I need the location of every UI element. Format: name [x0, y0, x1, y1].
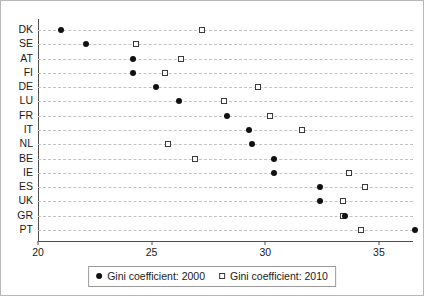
data-point-es-2010 [362, 184, 368, 190]
data-point-it-2010 [299, 127, 305, 133]
gridline [38, 59, 413, 60]
gridline [38, 159, 413, 160]
data-point-uk-2000 [317, 198, 323, 204]
category-label-at: AT [0, 52, 33, 65]
x-tick-30 [265, 241, 266, 245]
legend-label: Gini coefficient: 2010 [230, 270, 328, 282]
chart-legend: Gini coefficient: 2000Gini coefficient: … [88, 266, 336, 287]
gini-coefficient-dot-plot: DKSEATFIDELUFRITNLBEIEESUKGRPT 20253035 … [0, 0, 424, 296]
x-tick-20 [38, 241, 39, 245]
gridline [38, 87, 413, 88]
data-point-se-2000 [83, 41, 89, 47]
gridline [38, 173, 413, 174]
open-square-icon [219, 273, 225, 279]
x-tick-25 [151, 241, 152, 245]
data-point-at-2010 [178, 56, 184, 62]
category-label-gr: GR [0, 209, 33, 222]
data-point-pt-2010 [358, 227, 364, 233]
data-point-es-2000 [317, 184, 323, 190]
x-tick-label-30: 30 [245, 246, 285, 258]
data-point-pt-2000 [412, 227, 418, 233]
gridline [38, 201, 413, 202]
data-point-fi-2010 [162, 70, 168, 76]
x-tick-35 [378, 241, 379, 245]
category-label-lu: LU [0, 94, 33, 107]
data-point-uk-2010 [340, 198, 346, 204]
gridline [38, 216, 413, 217]
category-label-dk: DK [0, 23, 33, 36]
x-axis-line [38, 241, 413, 242]
data-point-nl-2000 [249, 141, 255, 147]
category-label-nl: NL [0, 137, 33, 150]
gridline [38, 187, 413, 188]
legend-entry-2010: Gini coefficient: 2010 [219, 270, 328, 282]
category-label-se: SE [0, 37, 33, 50]
gridline [38, 44, 413, 45]
data-point-be-2010 [192, 156, 198, 162]
category-label-be: BE [0, 152, 33, 165]
data-point-fr-2010 [267, 113, 273, 119]
x-tick-label-20: 20 [18, 246, 58, 258]
data-point-nl-2010 [165, 141, 171, 147]
data-point-it-2000 [246, 127, 252, 133]
gridline [38, 144, 413, 145]
data-point-dk-2000 [58, 27, 64, 33]
data-point-dk-2010 [199, 27, 205, 33]
category-label-pt: PT [0, 223, 33, 236]
legend-label: Gini coefficient: 2000 [107, 270, 205, 282]
data-point-be-2000 [271, 156, 277, 162]
plot-area: DKSEATFIDELUFRITNLBEIEESUKGRPT 20253035 [38, 19, 413, 241]
data-point-se-2010 [133, 41, 139, 47]
category-label-it: IT [0, 123, 33, 136]
category-label-ie: IE [0, 166, 33, 179]
gridline [38, 73, 413, 74]
data-point-lu-2000 [176, 98, 182, 104]
category-label-fr: FR [0, 109, 33, 122]
legend-entry-2000: Gini coefficient: 2000 [96, 270, 205, 282]
category-label-fi: FI [0, 66, 33, 79]
filled-circle-icon [96, 273, 102, 279]
gridline [38, 30, 413, 31]
data-point-de-2000 [153, 84, 159, 90]
data-point-de-2010 [255, 84, 261, 90]
x-tick-label-35: 35 [359, 246, 399, 258]
data-point-ie-2000 [271, 170, 277, 176]
data-point-lu-2010 [221, 98, 227, 104]
category-label-es: ES [0, 180, 33, 193]
category-label-de: DE [0, 80, 33, 93]
category-label-uk: UK [0, 194, 33, 207]
data-point-at-2000 [130, 56, 136, 62]
data-point-fi-2000 [130, 70, 136, 76]
data-point-ie-2010 [346, 170, 352, 176]
data-point-fr-2000 [224, 113, 230, 119]
data-point-gr-2000 [342, 213, 348, 219]
x-tick-label-25: 25 [132, 246, 172, 258]
gridline [38, 130, 413, 131]
